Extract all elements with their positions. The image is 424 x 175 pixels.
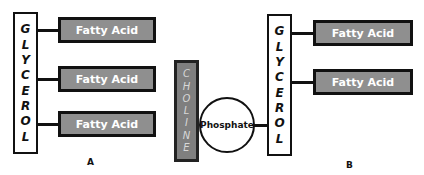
glycerol-letter: O <box>20 115 30 127</box>
fatty-acid-label: Fatty Acid <box>332 27 395 40</box>
fatty-acid-b2: Fatty Acid <box>313 69 413 95</box>
choline-letter: I <box>185 118 188 128</box>
bond-line-a3 <box>38 123 59 126</box>
fatty-acid-label: Fatty Acid <box>332 76 395 89</box>
choline-letter: H <box>183 82 191 92</box>
fatty-acid-b1: Fatty Acid <box>313 20 413 46</box>
glycerol-letter: E <box>21 85 29 97</box>
phosphate-label: Phosphate <box>200 120 254 130</box>
bond-line-b2 <box>292 81 314 84</box>
glycerol-letter: R <box>275 102 284 114</box>
glycerol-letter: O <box>274 117 284 129</box>
glycerol-backbone-a: G L Y C E R O L <box>13 12 38 154</box>
panel-label-b: B <box>346 160 353 170</box>
glycerol-letter: C <box>21 69 30 81</box>
fatty-acid-a3: Fatty Acid <box>58 111 156 137</box>
fatty-acid-a2: Fatty Acid <box>58 66 156 92</box>
choline-letter: E <box>183 143 189 153</box>
glycerol-letter: C <box>275 71 284 83</box>
glycerol-letter: L <box>22 39 30 51</box>
glycerol-letter: G <box>275 25 285 37</box>
fatty-acid-a1: Fatty Acid <box>58 17 156 43</box>
panel-label-a: A <box>87 157 94 167</box>
fatty-acid-label: Fatty Acid <box>76 73 139 86</box>
glycerol-letter: Y <box>21 54 30 66</box>
choline-letter: L <box>184 106 190 116</box>
glycerol-letter: R <box>21 100 30 112</box>
bond-line-b1 <box>292 32 314 35</box>
glycerol-letter: L <box>276 41 284 53</box>
bond-line-phosphate-glycerol <box>254 124 268 127</box>
phosphate-group: Phosphate <box>199 97 255 153</box>
glycerol-letter: L <box>276 133 284 145</box>
glycerol-backbone-b: G L Y C E R O L <box>267 14 292 156</box>
choline-head-group: C H O L I N E <box>174 60 199 162</box>
glycerol-letter: Y <box>275 56 284 68</box>
bond-line-a2 <box>38 78 59 81</box>
choline-letter: C <box>183 69 190 79</box>
fatty-acid-label: Fatty Acid <box>76 24 139 37</box>
glycerol-letter: L <box>22 131 30 143</box>
choline-letter: N <box>183 131 190 141</box>
choline-letter: O <box>183 94 191 104</box>
fatty-acid-label: Fatty Acid <box>76 118 139 131</box>
glycerol-letter: E <box>275 87 283 99</box>
glycerol-letter: G <box>21 23 31 35</box>
bond-line-a1 <box>38 29 59 32</box>
